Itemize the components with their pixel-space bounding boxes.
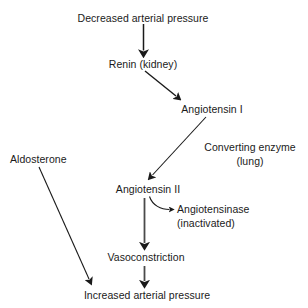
node-vasoconstriction: Vasoconstriction [107, 251, 184, 264]
edge-angiotensin-ii-to-angiotensinase [150, 197, 170, 210]
node-renin-kidney: Renin (kidney) [109, 58, 177, 71]
node-increased-arterial-pressure: Increased arterial pressure [84, 289, 210, 302]
node-angiotensin-i: Angiotensin I [181, 103, 242, 116]
edge-angiotensin-i-to-angiotensin-ii [153, 117, 207, 175]
edge-renin-to-angiotensin-i [145, 71, 176, 96]
node-aldosterone: Aldosterone [10, 153, 67, 166]
renin-angiotensin-diagram: Decreased arterial pressure Renin (kidne… [0, 0, 308, 308]
edge-aldosterone-to-increased-pressure [39, 167, 89, 279]
node-angiotensin-ii: Angiotensin II [116, 183, 180, 196]
node-angiotensinase: Angiotensinase [177, 203, 250, 216]
node-converting-enzyme-site: (lung) [236, 155, 263, 168]
node-decreased-arterial-pressure: Decreased arterial pressure [78, 12, 209, 25]
node-converting-enzyme: Converting enzyme [204, 141, 295, 154]
node-angiotensinase-state: (inactivated) [177, 217, 235, 230]
